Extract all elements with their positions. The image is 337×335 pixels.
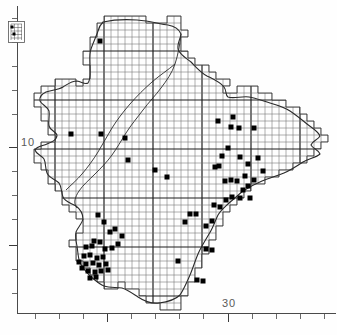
record-dot bbox=[235, 179, 240, 184]
record-dot bbox=[91, 261, 96, 266]
record-dot bbox=[153, 168, 158, 173]
record-dot bbox=[110, 246, 115, 251]
record-dot bbox=[96, 213, 101, 218]
record-dot bbox=[92, 239, 97, 244]
record-dot bbox=[106, 268, 111, 273]
record-dot bbox=[120, 234, 125, 239]
record-dot bbox=[113, 227, 118, 232]
record-dot bbox=[204, 224, 209, 229]
record-dot bbox=[210, 248, 215, 253]
record-dot bbox=[108, 230, 113, 235]
record-dot bbox=[210, 219, 215, 224]
record-dot bbox=[82, 254, 87, 259]
map-canvas bbox=[0, 0, 337, 335]
record-dot bbox=[88, 253, 93, 258]
record-dot bbox=[102, 220, 107, 225]
record-dot bbox=[97, 263, 102, 268]
record-dot bbox=[77, 260, 82, 265]
record-dot bbox=[116, 242, 121, 247]
record-dot bbox=[80, 266, 85, 271]
record-dot bbox=[86, 269, 91, 274]
record-dot bbox=[220, 154, 225, 159]
record-dot bbox=[98, 240, 103, 245]
record-dot bbox=[213, 165, 218, 170]
record-dot bbox=[218, 205, 223, 210]
record-dot bbox=[230, 195, 235, 200]
record-dot bbox=[237, 126, 242, 131]
record-dot bbox=[231, 115, 236, 120]
record-dot bbox=[238, 196, 243, 201]
record-dot bbox=[204, 247, 209, 252]
record-dot bbox=[99, 269, 104, 274]
record-dot bbox=[229, 178, 234, 183]
map-svg bbox=[0, 0, 337, 335]
record-dot bbox=[212, 203, 217, 208]
inset-record-dot bbox=[11, 26, 14, 29]
record-dot bbox=[226, 146, 231, 151]
record-dot bbox=[224, 198, 229, 203]
record-dot bbox=[126, 158, 131, 163]
record-dot bbox=[84, 245, 89, 250]
record-dot bbox=[223, 179, 228, 184]
record-dot bbox=[104, 262, 109, 267]
record-dot bbox=[238, 155, 243, 160]
record-dot bbox=[165, 175, 170, 180]
record-dot bbox=[176, 259, 181, 264]
inset-record-dot bbox=[13, 33, 16, 36]
record-dot bbox=[248, 196, 253, 201]
record-dot bbox=[256, 156, 261, 161]
record-dot bbox=[188, 212, 193, 217]
record-dot bbox=[252, 126, 257, 131]
record-dot bbox=[241, 188, 246, 193]
inset-svg bbox=[8, 21, 25, 43]
record-dot bbox=[246, 184, 251, 189]
record-dot bbox=[261, 169, 266, 174]
record-dot bbox=[88, 276, 93, 281]
grid-overlay bbox=[0, 0, 337, 335]
record-dot bbox=[93, 270, 98, 275]
record-dot bbox=[201, 279, 206, 284]
record-dot bbox=[69, 132, 74, 137]
record-dot bbox=[103, 247, 108, 252]
record-dot bbox=[195, 278, 200, 283]
record-dot bbox=[94, 275, 99, 280]
record-dot bbox=[246, 162, 251, 167]
island-inset bbox=[8, 21, 25, 43]
record-dot bbox=[123, 136, 128, 141]
record-dot bbox=[229, 125, 234, 130]
record-dot bbox=[95, 256, 100, 261]
record-dot bbox=[194, 212, 199, 217]
record-dot bbox=[252, 178, 257, 183]
distribution-map-figure: 10 30 bbox=[0, 0, 337, 335]
record-dot bbox=[90, 244, 95, 249]
record-dot bbox=[99, 132, 104, 137]
record-dot bbox=[216, 119, 221, 124]
record-dot bbox=[101, 255, 106, 260]
record-dot bbox=[243, 174, 248, 179]
record-dot bbox=[183, 220, 188, 225]
record-dot bbox=[98, 39, 103, 44]
